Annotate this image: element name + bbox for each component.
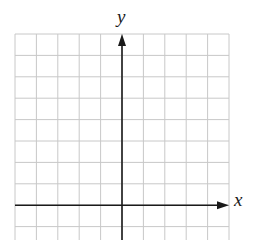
x-axis-arrowhead bbox=[217, 201, 229, 209]
coordinate-grid: x y bbox=[0, 0, 253, 240]
y-axis-label: y bbox=[115, 6, 126, 27]
x-axis-label: x bbox=[233, 189, 243, 210]
y-axis-arrowhead bbox=[118, 34, 126, 46]
